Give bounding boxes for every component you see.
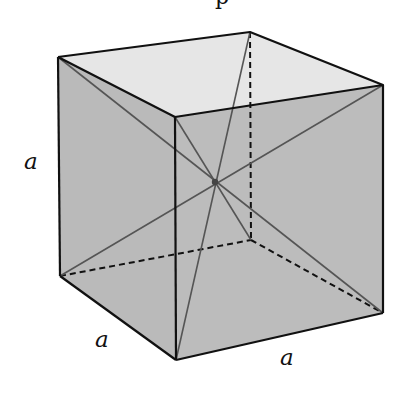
label-height-a: a xyxy=(24,150,38,173)
front-face xyxy=(175,85,383,360)
cube-diagram xyxy=(0,0,409,393)
edge-front-vertical xyxy=(175,117,176,360)
center-point xyxy=(212,179,218,185)
label-width-a: a xyxy=(280,346,294,369)
label-depth-a: a xyxy=(95,328,109,351)
